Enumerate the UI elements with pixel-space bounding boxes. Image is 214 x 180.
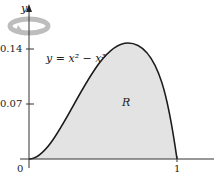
curve-equation-label: y = x² − x³	[46, 52, 106, 65]
y-tick-label: 0.14	[0, 43, 22, 54]
region-diagram	[0, 0, 214, 180]
x-tick-label: 0	[17, 163, 23, 174]
y-axis-label: y	[21, 2, 27, 15]
y-tick-label: 0.07	[0, 98, 22, 109]
region-label: R	[122, 96, 130, 109]
x-tick-label: 1	[174, 163, 180, 174]
